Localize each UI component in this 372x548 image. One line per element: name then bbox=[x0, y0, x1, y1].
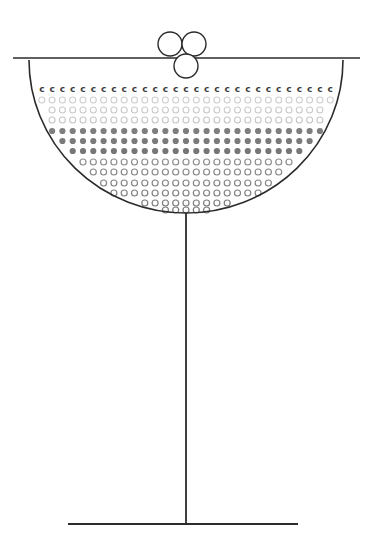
fizz-ring bbox=[121, 190, 127, 196]
fizz-ring bbox=[214, 180, 220, 186]
fizz-ring bbox=[224, 190, 230, 196]
crescent-glyph: c bbox=[60, 84, 65, 94]
fizz-dot bbox=[173, 128, 179, 134]
fizz-ring bbox=[255, 180, 261, 186]
fizz-dot bbox=[183, 138, 189, 144]
fizz-dot bbox=[80, 138, 86, 144]
fizz-ring bbox=[183, 159, 189, 165]
fizz-ring bbox=[214, 200, 220, 206]
crescent-glyph: c bbox=[297, 84, 302, 94]
fizz-dot bbox=[224, 148, 230, 154]
fizz-ring bbox=[162, 97, 168, 103]
pale-ring-row-3 bbox=[49, 117, 323, 123]
fizz-ring bbox=[214, 97, 220, 103]
fizz-ring bbox=[111, 169, 117, 175]
fizz-dot bbox=[255, 138, 261, 144]
fizz-dot bbox=[234, 148, 240, 154]
fizz-dot bbox=[307, 128, 313, 134]
fizz-ring bbox=[111, 107, 117, 113]
fizz-ring bbox=[245, 107, 251, 113]
fizz-dot bbox=[245, 128, 251, 134]
fizz-dot bbox=[224, 138, 230, 144]
fizz-ring bbox=[224, 200, 230, 206]
fizz-ring bbox=[90, 117, 96, 123]
fizz-dot bbox=[276, 138, 282, 144]
fizz-ring bbox=[235, 190, 241, 196]
fizz-dot bbox=[265, 148, 271, 154]
fizz-ring bbox=[101, 169, 107, 175]
fizz-ring bbox=[132, 180, 138, 186]
fizz-dot bbox=[317, 128, 323, 134]
fizz-dot bbox=[80, 128, 86, 134]
fizz-dot bbox=[121, 138, 127, 144]
fizz-ring bbox=[183, 117, 189, 123]
fizz-ring bbox=[142, 117, 148, 123]
fizz-dot bbox=[214, 148, 220, 154]
fizz-dot bbox=[204, 148, 210, 154]
fizz-ring bbox=[183, 207, 189, 213]
fizz-ring bbox=[142, 180, 148, 186]
fizz-ring bbox=[296, 97, 302, 103]
fizz-dot bbox=[152, 128, 158, 134]
crescent-glyph: c bbox=[317, 84, 322, 94]
crescent-glyph: c bbox=[132, 84, 137, 94]
fizz-dot bbox=[121, 148, 127, 154]
dark-dot-row-2 bbox=[59, 138, 312, 144]
fizz-dot bbox=[265, 138, 271, 144]
fizz-ring bbox=[152, 117, 158, 123]
fizz-ring bbox=[173, 107, 179, 113]
fizz-dot bbox=[276, 148, 282, 154]
fizz-dot bbox=[296, 138, 302, 144]
crescent-glyph: c bbox=[255, 84, 260, 94]
fizz-dot bbox=[245, 148, 251, 154]
fizz-dot bbox=[276, 128, 282, 134]
fizz-ring bbox=[214, 117, 220, 123]
mid-ring-row-5 bbox=[142, 200, 230, 206]
fizz-dot bbox=[142, 128, 148, 134]
fizz-ring bbox=[245, 159, 251, 165]
fizz-ring bbox=[162, 159, 168, 165]
fizz-dot bbox=[162, 138, 168, 144]
fizz-layer: ccccccccccccccccccccccccccccc bbox=[39, 84, 333, 213]
fizz-ring bbox=[235, 180, 241, 186]
fizz-ring bbox=[214, 190, 220, 196]
fizz-ring bbox=[59, 97, 65, 103]
fizz-ring bbox=[204, 169, 210, 175]
fizz-ring bbox=[193, 117, 199, 123]
fizz-ring bbox=[101, 159, 107, 165]
fizz-ring bbox=[80, 117, 86, 123]
fizz-ring bbox=[245, 190, 251, 196]
bubble-lower-center bbox=[174, 54, 198, 78]
fizz-ring bbox=[183, 97, 189, 103]
fizz-dot bbox=[296, 148, 302, 154]
crescent-glyph: c bbox=[328, 84, 333, 94]
fizz-dot bbox=[90, 138, 96, 144]
fizz-ring bbox=[162, 190, 168, 196]
mid-ring-row-2 bbox=[90, 169, 281, 175]
fizz-dot bbox=[131, 128, 137, 134]
fizz-ring bbox=[111, 117, 117, 123]
fizz-ring bbox=[39, 97, 45, 103]
fizz-ring bbox=[235, 117, 241, 123]
fizz-dot bbox=[224, 128, 230, 134]
fizz-ring bbox=[183, 180, 189, 186]
coupe-glass-drawing: ccccccccccccccccccccccccccccc bbox=[0, 0, 372, 548]
fizz-ring bbox=[90, 107, 96, 113]
fizz-ring bbox=[101, 107, 107, 113]
fizz-ring bbox=[307, 107, 313, 113]
fizz-ring bbox=[162, 200, 168, 206]
fizz-ring bbox=[152, 200, 158, 206]
pale-ring-row-1 bbox=[39, 97, 333, 103]
fizz-dot bbox=[204, 128, 210, 134]
fizz-ring bbox=[276, 159, 282, 165]
fizz-dot bbox=[193, 148, 199, 154]
fizz-ring bbox=[152, 190, 158, 196]
fizz-ring bbox=[142, 107, 148, 113]
fizz-ring bbox=[173, 97, 179, 103]
fizz-ring bbox=[265, 159, 271, 165]
crescent-glyph: c bbox=[235, 84, 240, 94]
dark-dot-row-3 bbox=[70, 148, 303, 154]
fizz-ring bbox=[224, 117, 230, 123]
mid-ring-row-3 bbox=[101, 180, 272, 186]
crescent-glyph: c bbox=[183, 84, 188, 94]
